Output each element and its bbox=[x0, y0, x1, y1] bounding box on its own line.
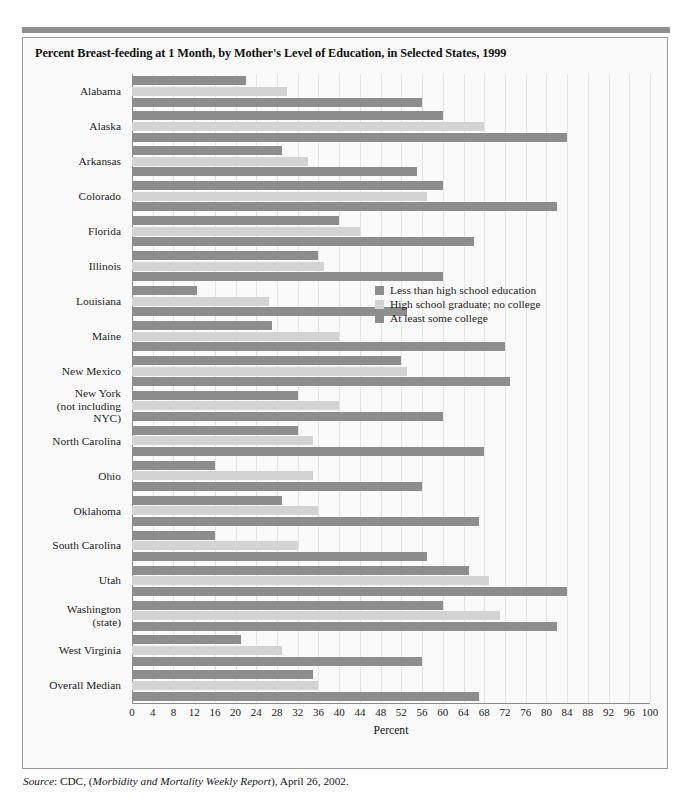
bar bbox=[132, 587, 567, 596]
bar bbox=[132, 681, 318, 690]
bar bbox=[132, 76, 246, 85]
category-label: Alabama bbox=[0, 85, 121, 98]
x-tick-label: 88 bbox=[582, 706, 593, 718]
x-tick-label: 56 bbox=[417, 706, 428, 718]
category-label: Illinois bbox=[0, 260, 121, 273]
bar bbox=[132, 471, 313, 480]
source-publication: Morbidity and Mortality Weekly Report bbox=[93, 775, 271, 787]
chart-legend: Less than high school educationHigh scho… bbox=[375, 283, 541, 326]
x-tick-label: 44 bbox=[354, 706, 365, 718]
bar bbox=[132, 401, 339, 410]
bar bbox=[132, 262, 324, 271]
x-tick-label: 100 bbox=[642, 706, 659, 718]
bar bbox=[132, 251, 318, 260]
category-label: New York (not including NYC) bbox=[0, 387, 121, 425]
bar bbox=[132, 496, 282, 505]
bar bbox=[132, 202, 557, 211]
legend-label: High school graduate; no college bbox=[390, 297, 541, 311]
legend-swatch-icon bbox=[375, 300, 384, 309]
x-tick-label: 16 bbox=[209, 706, 220, 718]
x-tick-label: 60 bbox=[437, 706, 448, 718]
plot-area bbox=[132, 74, 650, 703]
x-tick-label: 68 bbox=[479, 706, 490, 718]
bar bbox=[132, 426, 298, 435]
bar bbox=[132, 552, 427, 561]
x-axis-title: Percent bbox=[132, 724, 650, 737]
bar-group bbox=[132, 670, 650, 700]
bar bbox=[132, 531, 215, 540]
bar-group bbox=[132, 356, 650, 386]
bar-group bbox=[132, 426, 650, 456]
bar bbox=[132, 461, 215, 470]
bar bbox=[132, 377, 510, 386]
bar bbox=[132, 356, 401, 365]
x-tick-label: 80 bbox=[541, 706, 552, 718]
legend-label: At least some college bbox=[390, 311, 488, 325]
bar bbox=[132, 297, 269, 306]
bar bbox=[132, 227, 360, 236]
x-tick-label: 48 bbox=[375, 706, 386, 718]
bar-group bbox=[132, 566, 650, 596]
bar bbox=[132, 146, 282, 155]
category-label: Ohio bbox=[0, 470, 121, 483]
top-decorative-rule bbox=[22, 27, 670, 33]
x-tick-label: 24 bbox=[251, 706, 262, 718]
x-tick-label: 0 bbox=[129, 706, 135, 718]
bar bbox=[132, 412, 443, 421]
bar-group bbox=[132, 146, 650, 176]
x-tick-label: 76 bbox=[520, 706, 531, 718]
category-label: Alaska bbox=[0, 120, 121, 133]
x-tick-label: 4 bbox=[150, 706, 156, 718]
bar bbox=[132, 482, 422, 491]
x-tick-label: 64 bbox=[458, 706, 469, 718]
bar bbox=[132, 447, 484, 456]
chart-page: Percent Breast-feeding at 1 Month, by Mo… bbox=[0, 0, 690, 809]
source-text-tail: ), April 26, 2002. bbox=[271, 775, 349, 787]
legend-item: Less than high school education bbox=[375, 283, 541, 297]
bar-group bbox=[132, 601, 650, 631]
category-label: West Virginia bbox=[0, 644, 121, 657]
bar-group bbox=[132, 461, 650, 491]
bar bbox=[132, 237, 474, 246]
bar-group bbox=[132, 635, 650, 665]
bar bbox=[132, 506, 318, 515]
legend-item: High school graduate; no college bbox=[375, 297, 541, 311]
bar bbox=[132, 657, 422, 666]
bar bbox=[132, 332, 339, 341]
category-label: Overall Median bbox=[0, 679, 121, 692]
x-tick-label: 28 bbox=[272, 706, 283, 718]
bar-groups bbox=[132, 74, 650, 703]
bar-group bbox=[132, 391, 650, 421]
bar bbox=[132, 517, 479, 526]
x-tick-label: 52 bbox=[396, 706, 407, 718]
x-tick-label: 32 bbox=[292, 706, 303, 718]
x-tick-label: 20 bbox=[230, 706, 241, 718]
x-tick-label: 84 bbox=[562, 706, 573, 718]
category-label: New Mexico bbox=[0, 365, 121, 378]
x-tick-label: 72 bbox=[499, 706, 510, 718]
bar bbox=[132, 98, 422, 107]
x-tick-label: 92 bbox=[603, 706, 614, 718]
bar bbox=[132, 181, 443, 190]
bar-group bbox=[132, 251, 650, 281]
category-label: Utah bbox=[0, 574, 121, 587]
x-tick-label: 36 bbox=[313, 706, 324, 718]
source-text-lead: : CDC, ( bbox=[54, 775, 93, 787]
category-label: Florida bbox=[0, 225, 121, 238]
category-label: North Carolina bbox=[0, 435, 121, 448]
category-label: Louisiana bbox=[0, 295, 121, 308]
x-tick-label: 40 bbox=[334, 706, 345, 718]
bar-group bbox=[132, 216, 650, 246]
bar bbox=[132, 167, 417, 176]
category-label: Washington (state) bbox=[0, 603, 121, 628]
bar bbox=[132, 566, 469, 575]
bar bbox=[132, 611, 500, 620]
source-note: Source: CDC, (Morbidity and Mortality We… bbox=[23, 775, 349, 787]
bar bbox=[132, 192, 427, 201]
bar bbox=[132, 576, 489, 585]
bar bbox=[132, 622, 557, 631]
category-label: Arkansas bbox=[0, 155, 121, 168]
bar bbox=[132, 692, 479, 701]
category-label: Oklahoma bbox=[0, 505, 121, 518]
legend-label: Less than high school education bbox=[390, 283, 536, 297]
